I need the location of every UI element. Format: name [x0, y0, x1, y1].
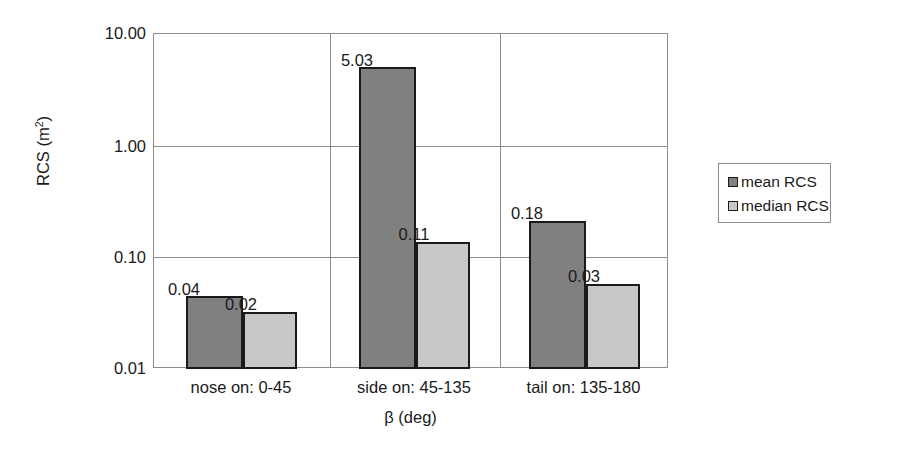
bar-value-label-mean-side-on: 5.03 [328, 52, 386, 69]
x-category-label-side-on: side on: 45-135 [329, 379, 499, 396]
bar-median-tail-on [586, 284, 640, 369]
bar-mean-side-on [359, 67, 416, 369]
x-axis-title: β (deg) [153, 409, 668, 426]
y-axis: 10.00 1.00 0.10 0.01 [62, 33, 146, 368]
x-category-label-nose-on: nose on: 0-45 [153, 379, 329, 396]
y-tick-label: 10.00 [68, 25, 146, 42]
x-category-label-tail-on: tail on: 135-180 [499, 379, 668, 396]
chart-legend: mean RCS median RCS [718, 163, 831, 223]
bar-value-label-median-side-on: 0.11 [386, 226, 442, 243]
y-axis-title: RCS (m2) [30, 86, 56, 216]
category-separator [500, 34, 501, 367]
y-tick-label: 0.01 [68, 360, 146, 377]
y-tick-label: 1.00 [68, 138, 146, 155]
bar-median-side-on [416, 242, 470, 369]
bar-chart: RCS (m2) 10.00 1.00 0.10 0.01 0.04 0.02 … [0, 0, 911, 451]
legend-swatch-icon-median [728, 201, 738, 211]
bar-value-label-mean-tail-on: 0.18 [498, 205, 556, 222]
legend-label-median: median RCS [741, 198, 829, 214]
bar-value-label-median-tail-on: 0.03 [556, 268, 612, 285]
legend-item-median-rcs: median RCS [728, 197, 829, 215]
bar-mean-tail-on [529, 221, 586, 369]
plot-area [153, 33, 668, 368]
legend-swatch-icon-mean [728, 177, 738, 187]
y-tick-label: 0.10 [68, 249, 146, 266]
legend-item-mean-rcs: mean RCS [728, 173, 817, 191]
bar-median-nose-on [243, 312, 297, 369]
y-axis-title-suffix: ) [34, 116, 52, 122]
legend-label-mean: mean RCS [741, 174, 817, 190]
category-separator [330, 34, 331, 367]
y-axis-title-superscript: 2 [33, 122, 45, 128]
y-axis-title-text: RCS (m [34, 127, 52, 186]
bar-value-label-median-nose-on: 0.02 [213, 296, 269, 313]
bar-value-label-mean-nose-on: 0.04 [155, 281, 213, 298]
